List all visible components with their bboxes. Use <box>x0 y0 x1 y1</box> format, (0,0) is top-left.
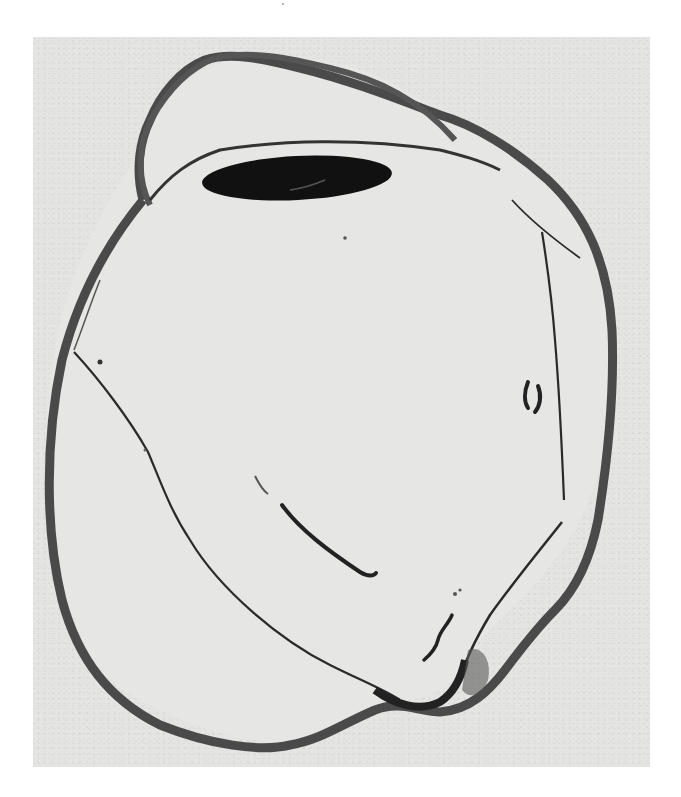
speck <box>144 449 147 452</box>
eye-section-illustration <box>0 0 681 797</box>
speck <box>453 592 457 596</box>
speck <box>458 588 461 591</box>
page <box>0 0 681 797</box>
speck <box>343 236 347 240</box>
speck <box>98 360 103 365</box>
